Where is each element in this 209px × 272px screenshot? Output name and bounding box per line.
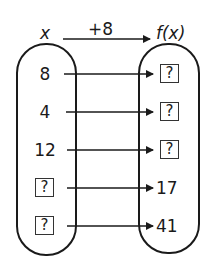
input-unknown-box-4[interactable]: ? — [35, 178, 54, 197]
output-value-5: 41 — [156, 216, 182, 236]
output-unknown-box-1[interactable]: ? — [160, 64, 179, 83]
output-label: f(x) — [156, 23, 185, 43]
input-value-3: 12 — [30, 140, 60, 160]
operation-label: +8 — [88, 19, 113, 39]
input-label: x — [40, 23, 50, 43]
input-value-1: 8 — [30, 64, 60, 84]
output-unknown-box-2[interactable]: ? — [160, 102, 179, 121]
input-value-2: 4 — [30, 102, 60, 122]
output-value-4: 17 — [156, 178, 182, 198]
output-unknown-box-3[interactable]: ? — [160, 140, 179, 159]
input-unknown-box-5[interactable]: ? — [35, 216, 54, 235]
